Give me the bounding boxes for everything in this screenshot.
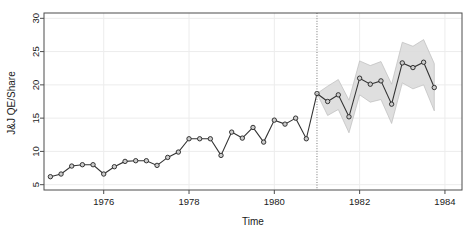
x-tick-label: 1982 — [349, 196, 370, 207]
data-point — [70, 164, 74, 168]
data-point — [251, 125, 255, 129]
data-point — [197, 137, 201, 141]
data-point — [240, 136, 244, 140]
data-point — [272, 118, 276, 122]
chart-svg: 51015202530 19761978198019821984 J&J QE/… — [0, 0, 476, 234]
data-point — [102, 172, 106, 176]
data-point — [283, 122, 287, 126]
y-tick-label: 10 — [30, 146, 41, 157]
data-point — [48, 174, 52, 178]
forecast-chart: 51015202530 19761978198019821984 J&J QE/… — [0, 0, 476, 234]
y-axis-title: J&J QE/Share — [6, 71, 17, 135]
forecast-data-point — [421, 60, 425, 64]
forecast-data-point — [389, 102, 393, 106]
data-point — [80, 163, 84, 167]
forecast-data-point — [325, 99, 329, 103]
data-point — [187, 137, 191, 141]
x-tick-label: 1976 — [93, 196, 114, 207]
data-point — [229, 130, 233, 134]
data-point — [165, 155, 169, 159]
chart-background — [0, 0, 476, 234]
forecast-data-point — [379, 79, 383, 83]
y-tick-label: 5 — [30, 182, 41, 187]
y-tick-label: 30 — [30, 13, 41, 24]
data-point — [176, 150, 180, 154]
data-point — [155, 163, 159, 167]
x-tick-label: 1978 — [178, 196, 199, 207]
data-point — [134, 159, 138, 163]
forecast-data-point — [357, 76, 361, 80]
y-tick-label: 20 — [30, 80, 41, 91]
data-point — [123, 159, 127, 163]
forecast-data-point — [432, 85, 436, 89]
data-point — [304, 137, 308, 141]
data-point — [261, 140, 265, 144]
data-point — [59, 172, 63, 176]
y-tick-label: 25 — [30, 46, 41, 57]
forecast-data-point — [347, 115, 351, 119]
forecast-data-point — [368, 82, 372, 86]
y-tick-label: 15 — [30, 113, 41, 124]
x-axis-title: Time — [242, 216, 264, 227]
data-point — [208, 137, 212, 141]
data-point — [112, 165, 116, 169]
forecast-data-point — [336, 93, 340, 97]
data-point — [219, 153, 223, 157]
x-tick-label: 1984 — [434, 196, 455, 207]
data-point — [144, 159, 148, 163]
data-point — [91, 163, 95, 167]
forecast-data-point — [400, 61, 404, 65]
forecast-data-point — [411, 65, 415, 69]
data-point — [293, 116, 297, 120]
x-tick-label: 1980 — [264, 196, 285, 207]
